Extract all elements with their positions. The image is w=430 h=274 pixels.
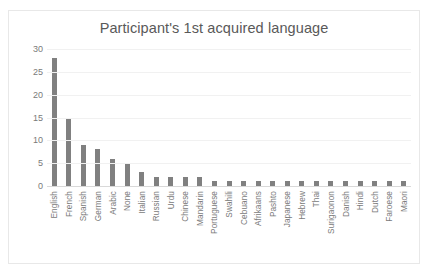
bar	[212, 181, 217, 186]
x-label-slot: Urdu	[164, 189, 179, 261]
x-axis-tick-label: Afrikaans	[254, 191, 263, 226]
bar	[285, 181, 290, 186]
x-axis-tick-label: Thai	[312, 191, 321, 207]
bar	[387, 181, 392, 186]
bar	[125, 163, 130, 186]
bar	[372, 181, 377, 186]
y-axis-tick-label: 5	[38, 158, 43, 168]
bar	[183, 177, 188, 186]
x-label-slot: Pashto	[265, 189, 280, 261]
bar	[197, 177, 202, 186]
bar	[139, 172, 144, 186]
bar	[256, 181, 261, 186]
x-axis-tick-label: Russian	[152, 191, 161, 221]
x-label-slot: Italian	[134, 189, 149, 261]
bar	[154, 177, 159, 186]
bar	[358, 181, 363, 186]
x-label-slot: French	[62, 189, 77, 261]
x-label-slot: Cebuano	[236, 189, 251, 261]
x-axis-tick-label: Hebrew	[297, 191, 306, 220]
gridline	[47, 49, 411, 50]
x-axis-tick-label: French	[64, 191, 73, 217]
bar	[270, 181, 275, 186]
x-label-slot: Arabic	[105, 189, 120, 261]
gridline	[47, 72, 411, 73]
y-axis-tick-label: 30	[33, 44, 43, 54]
bar	[95, 149, 100, 186]
x-label-slot: Dutch	[367, 189, 382, 261]
x-axis-tick-label: Mandarin	[195, 191, 204, 226]
x-axis-tick-label: Maori	[399, 191, 408, 212]
x-label-slot: Russian	[149, 189, 164, 261]
x-axis-tick-label: Danish	[341, 191, 350, 217]
bar	[168, 177, 173, 186]
y-axis-tick-label: 0	[38, 181, 43, 191]
x-axis-tick-label: Pashto	[268, 191, 277, 217]
x-axis-tick-label: Urdu	[166, 191, 175, 209]
bar	[241, 181, 246, 186]
gridline	[47, 95, 411, 96]
cut-off-header-text	[10, 0, 420, 4]
x-axis-line	[47, 186, 411, 187]
plot-wrapper: 302520151050 EnglishFrenchSpanishGermanA…	[21, 49, 413, 257]
x-axis-labels: EnglishFrenchSpanishGermanArabicNoneItal…	[47, 189, 411, 261]
bar	[66, 118, 71, 187]
bar	[401, 181, 406, 186]
x-axis-tick-label: Spanish	[79, 191, 88, 221]
x-label-slot: Faroese	[382, 189, 397, 261]
x-axis-tick-label: Arabic	[108, 191, 117, 215]
bar	[81, 145, 86, 186]
x-label-slot: Hebrew	[295, 189, 310, 261]
x-axis-tick-label: German	[93, 191, 102, 221]
bar	[343, 181, 348, 186]
x-label-slot: Chinese	[178, 189, 193, 261]
gridline	[47, 140, 411, 141]
bar	[314, 181, 319, 186]
y-axis-tick-label: 10	[33, 135, 43, 145]
chart-title: Participant's 1st acquired language	[9, 20, 419, 36]
x-label-slot: Japanese	[280, 189, 295, 261]
x-label-slot: Afrikaans	[251, 189, 266, 261]
y-axis-tick-label: 15	[33, 113, 43, 123]
x-label-slot: Swahili	[222, 189, 237, 261]
x-axis-tick-label: Italian	[137, 191, 146, 214]
x-label-slot: Hindi	[353, 189, 368, 261]
plot-area	[47, 49, 411, 187]
x-label-slot: English	[47, 189, 62, 261]
x-axis-tick-label: Swahili	[225, 191, 234, 218]
x-axis-tick-label: Cebuano	[239, 191, 248, 225]
bar	[299, 181, 304, 186]
x-label-slot: Spanish	[76, 189, 91, 261]
x-label-slot: Mandarin	[193, 189, 208, 261]
x-label-slot: Portuguese	[207, 189, 222, 261]
x-label-slot: Danish	[338, 189, 353, 261]
y-axis: 302520151050	[21, 49, 43, 187]
gridline	[47, 118, 411, 119]
x-label-slot: Surigaonon	[324, 189, 339, 261]
bar	[328, 181, 333, 186]
y-axis-tick-label: 20	[33, 90, 43, 100]
x-axis-tick-label: Portuguese	[210, 191, 219, 234]
bar	[227, 181, 232, 186]
x-axis-tick-label: Japanese	[283, 191, 292, 227]
gridline	[47, 163, 411, 164]
x-label-slot: Maori	[397, 189, 412, 261]
x-axis-tick-label: English	[50, 191, 59, 219]
x-axis-tick-label: None	[123, 191, 132, 211]
x-label-slot: None	[120, 189, 135, 261]
y-axis-tick-label: 25	[33, 67, 43, 77]
x-label-slot: German	[91, 189, 106, 261]
x-axis-tick-label: Dutch	[370, 191, 379, 213]
x-label-slot: Thai	[309, 189, 324, 261]
x-axis-tick-label: Faroese	[385, 191, 394, 222]
x-axis-tick-label: Chinese	[181, 191, 190, 222]
bar	[52, 58, 57, 186]
x-axis-tick-label: Hindi	[356, 191, 365, 210]
x-axis-tick-label: Surigaonon	[326, 191, 335, 234]
chart-container: Participant's 1st acquired language 3025…	[8, 10, 420, 264]
